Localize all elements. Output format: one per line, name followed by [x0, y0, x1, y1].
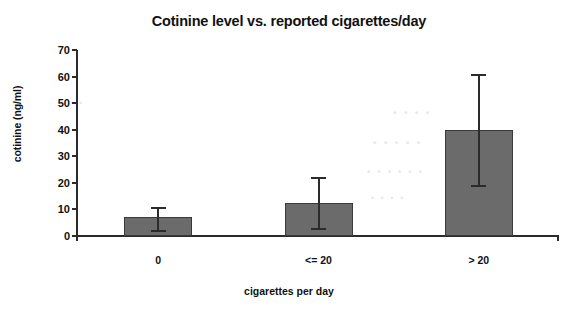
x-tick-label: 0 [98, 254, 218, 266]
error-bar-stem [318, 178, 320, 230]
y-tick-label: 30 [44, 151, 70, 162]
error-bar-stem [157, 208, 159, 231]
error-bar-cap-upper [151, 207, 166, 209]
y-tick-label: 0 [44, 231, 70, 242]
y-tick-mark [72, 49, 77, 51]
scan-artifact-text: · · · · [392, 103, 431, 123]
chart-figure: · · · · · · · · · · · · · · · · · · · · … [0, 0, 578, 317]
y-tick-mark [72, 235, 77, 237]
y-tick-mark [72, 76, 77, 78]
y-tick-label: 60 [44, 72, 70, 83]
x-axis-title: cigarettes per day [0, 285, 578, 297]
error-bar-cap-upper [311, 177, 326, 179]
y-tick-label: 70 [44, 45, 70, 56]
error-bar-cap-upper [471, 74, 486, 76]
x-tick-label: <= 20 [259, 254, 379, 266]
y-tick-mark [72, 182, 77, 184]
scan-artifact-text: · · · · [370, 190, 405, 207]
y-tick-label: 40 [44, 125, 70, 136]
chart-title: Cotinine level vs. reported cigarettes/d… [0, 13, 578, 29]
y-tick-mark [72, 208, 77, 210]
error-bar-cap-lower [471, 185, 486, 187]
y-tick-mark [72, 155, 77, 157]
x-axis-end-tick [557, 235, 559, 241]
error-bar-stem [478, 75, 480, 185]
y-tick-label: 20 [44, 178, 70, 189]
error-bar-cap-lower [151, 230, 166, 232]
x-tick-label: > 20 [419, 254, 539, 266]
y-tick-label: 50 [44, 98, 70, 109]
y-axis-title: cotinine (ng/ml) [11, 69, 23, 179]
scan-artifact-text: · · · · · [372, 133, 422, 153]
y-tick-mark [72, 129, 77, 131]
scan-artifact-text: · · · · · · [366, 163, 424, 181]
y-tick-label: 10 [44, 204, 70, 215]
error-bar-cap-lower [311, 228, 326, 230]
y-tick-mark [72, 102, 77, 104]
